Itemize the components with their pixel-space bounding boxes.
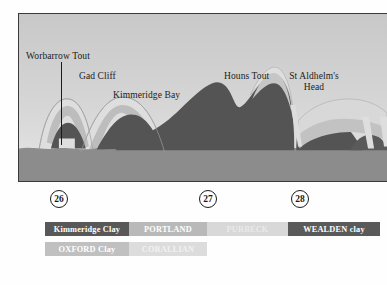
- marker-26[interactable]: 26: [50, 190, 68, 208]
- marker-27[interactable]: 27: [199, 190, 217, 208]
- legend-row-1: Kimmeridge Clay PORTLAND PURBECK WEALDEN…: [45, 222, 380, 236]
- label-gad-cliff: Gad Cliff: [79, 71, 116, 82]
- label-st-aldhelms-head-line1: St Aldhelm's Head: [289, 71, 339, 92]
- cross-section-frame: [18, 13, 387, 182]
- legend-item-corallian[interactable]: CORALLIAN: [129, 242, 207, 256]
- sea-base: [19, 148, 387, 181]
- legend-item-kimmeridge-clay[interactable]: Kimmeridge Clay: [45, 222, 129, 236]
- label-houns-tout: Houns Tout: [224, 71, 269, 82]
- label-worbarrow-tout: Worbarrow Tout: [26, 51, 90, 62]
- legend-row-2: OXFORD Clay CORALLIAN: [45, 242, 380, 256]
- legend-item-purbeck[interactable]: PURBECK: [207, 222, 288, 236]
- figure-root: Worbarrow Tout Gad Cliff Kimmeridge Bay …: [0, 0, 387, 285]
- legend-item-wealden-clay[interactable]: WEALDEN clay: [288, 222, 380, 236]
- legend-item-oxford-clay[interactable]: OXFORD Clay: [45, 242, 129, 256]
- legend: Kimmeridge Clay PORTLAND PURBECK WEALDEN…: [45, 222, 380, 262]
- marker-28[interactable]: 28: [291, 190, 309, 208]
- label-kimmeridge-bay: Kimmeridge Bay: [113, 90, 180, 101]
- worbarrow-tout-leader-line: [61, 62, 62, 145]
- cross-section-drawing: [19, 14, 387, 181]
- legend-item-portland[interactable]: PORTLAND: [129, 222, 207, 236]
- label-st-aldhelms-head: St Aldhelm's Head: [283, 71, 345, 93]
